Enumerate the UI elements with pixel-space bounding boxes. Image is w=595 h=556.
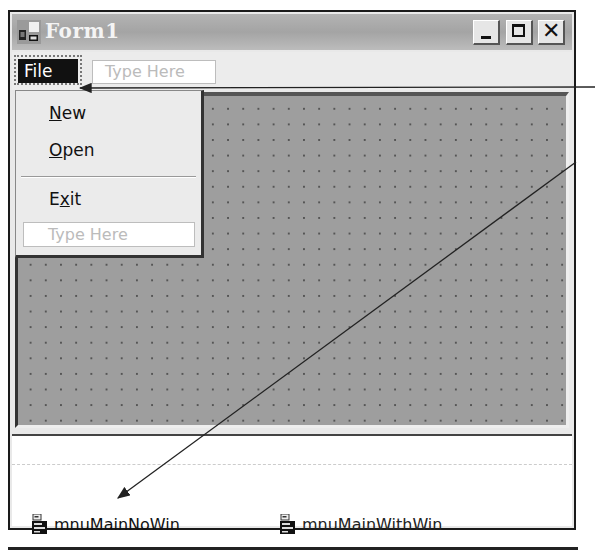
menu-item-open[interactable]: Open <box>49 140 94 160</box>
mnemonic: O <box>49 140 62 160</box>
bottom-border-line <box>8 547 578 550</box>
component-mnuMainNoWin[interactable]: mnuMainNoWin <box>32 512 180 536</box>
maximize-button[interactable] <box>506 20 533 45</box>
form-designer-window: Form1 ✕ File Type Here mnuMainNoWin <box>8 10 576 530</box>
minimize-icon <box>481 36 491 39</box>
label-rest: pen <box>62 140 94 160</box>
mnemonic: x <box>60 189 70 209</box>
mnemonic: N <box>49 103 62 123</box>
label-pre: E <box>49 189 60 209</box>
form-icon <box>17 20 41 44</box>
main-menu-icon <box>280 514 296 534</box>
close-icon: ✕ <box>542 19 560 43</box>
close-button[interactable]: ✕ <box>538 20 565 45</box>
maximize-icon <box>512 24 525 37</box>
menu-file[interactable]: File <box>18 59 78 83</box>
minimize-button[interactable] <box>473 20 500 45</box>
component-name: mnuMainNoWin <box>54 515 180 534</box>
label-rest: it <box>70 189 81 209</box>
title-bar[interactable]: Form1 ✕ <box>12 14 572 50</box>
tray-separator <box>12 464 572 465</box>
menu-bar: File Type Here <box>12 52 572 90</box>
menu-type-here[interactable]: Type Here <box>92 60 216 84</box>
menu-item-exit[interactable]: Exit <box>49 189 81 209</box>
main-menu-icon <box>32 514 48 534</box>
file-dropdown-menu: New Open Exit Type Here <box>15 90 204 258</box>
label-rest: ew <box>62 103 86 123</box>
window-title: Form1 <box>45 19 120 43</box>
component-name: mnuMainWithWin <box>302 515 442 534</box>
menu-item-new[interactable]: New <box>49 103 86 123</box>
dropdown-type-here[interactable]: Type Here <box>23 222 195 247</box>
component-tray: mnuMainNoWin mnuMainWithWin <box>12 434 572 526</box>
component-mnuMainWithWin[interactable]: mnuMainWithWin <box>280 512 442 536</box>
menu-separator <box>21 176 196 178</box>
